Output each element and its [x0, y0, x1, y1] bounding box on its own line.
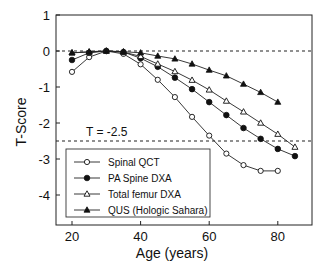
y-tick-label: -1	[38, 80, 50, 95]
x-tick-label: 80	[271, 229, 285, 244]
data-point	[172, 75, 178, 81]
x-tick-label: 60	[202, 229, 216, 244]
data-point	[241, 125, 247, 131]
threshold-label: T = -2.5	[86, 125, 128, 139]
data-point	[206, 99, 212, 105]
legend-marker-icon	[84, 159, 89, 164]
data-point	[155, 77, 160, 82]
data-point	[258, 168, 263, 173]
data-point	[138, 62, 143, 67]
data-point	[224, 151, 229, 156]
chart: 10-1-2-3-4 20406080 T = -2.5 Age (years)…	[0, 0, 326, 270]
data-point	[275, 168, 280, 173]
data-point	[224, 112, 230, 118]
legend-item-label: QUS (Hologic Sahara)	[108, 205, 207, 216]
data-point	[258, 136, 264, 142]
data-point	[189, 114, 194, 119]
data-point	[241, 163, 246, 168]
legend-marker-icon	[84, 175, 90, 181]
data-point	[69, 69, 74, 74]
y-axis-title: T-Score	[13, 97, 29, 146]
legend-item-label: Total femur DXA	[108, 189, 181, 200]
legend: Spinal QCTPA Spine DXATotal femur DXAQUS…	[66, 149, 210, 217]
x-axis-title: Age (years)	[136, 245, 208, 261]
y-tick-label: 0	[43, 44, 50, 59]
y-tick-label: -2	[38, 116, 50, 131]
y-tick-label: -4	[38, 188, 50, 203]
y-tick-label: 1	[43, 8, 50, 23]
data-point	[275, 146, 281, 152]
legend-item-label: PA Spine DXA	[108, 173, 172, 184]
data-point	[207, 133, 212, 138]
data-point	[189, 86, 195, 92]
data-point	[69, 57, 75, 63]
data-point	[172, 94, 177, 99]
data-point	[292, 153, 298, 159]
legend-item-label: Spinal QCT	[108, 157, 160, 168]
x-tick-label: 40	[133, 229, 147, 244]
y-tick-label: -3	[38, 152, 50, 167]
x-tick-label: 20	[65, 229, 79, 244]
